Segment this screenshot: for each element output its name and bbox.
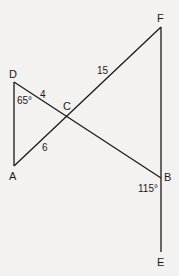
label-point-c: C (63, 100, 71, 112)
label-ca-length: 6 (42, 142, 48, 153)
label-angle-b: 115° (138, 183, 158, 194)
label-dc-length: 4 (40, 89, 46, 100)
label-point-e: E (157, 256, 164, 268)
label-point-a: A (9, 170, 17, 182)
label-angle-d: 65° (17, 95, 32, 106)
label-point-f: F (157, 12, 164, 24)
label-cf-length: 15 (97, 65, 109, 76)
label-point-b: B (164, 171, 171, 183)
label-point-d: D (9, 68, 17, 80)
geometry-diagram: D A C F B E 4 6 15 65° 115° (0, 0, 179, 276)
